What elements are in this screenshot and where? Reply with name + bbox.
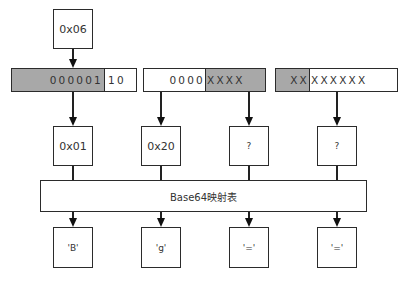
arrow-down-icon [333, 218, 341, 227]
arrow-down-icon [157, 218, 165, 227]
output-char-3: '=' [243, 243, 256, 253]
bit-group-1-gray-text: 000001 [50, 74, 103, 86]
index-box-4: ? [317, 126, 357, 166]
connector-line [160, 166, 162, 180]
bit-group-3-gray-text: XX [290, 74, 309, 86]
connector-line [248, 166, 250, 180]
bit-group-2: 0000 XXXX [143, 68, 266, 92]
arrow-down-icon [69, 218, 77, 227]
input-byte-box: 0x06 [53, 9, 93, 49]
arrow-down-icon [157, 117, 165, 126]
bit-group-3-white-text: XXXXXX [311, 74, 367, 86]
connector-line [336, 166, 338, 180]
index-value-2: 0x20 [147, 140, 175, 153]
output-char-1: 'B' [67, 243, 78, 253]
input-byte-label: 0x06 [59, 23, 87, 36]
bit-group-2-white-text: 0000 [169, 74, 205, 86]
arrow-down-icon [69, 59, 77, 68]
bit-group-2-gray-text: XXXX [207, 74, 245, 86]
bit-group-1-white-segment: 10 [105, 69, 136, 91]
index-value-3: ? [247, 141, 252, 151]
connector-line [72, 49, 74, 59]
output-box-3: '=' [229, 227, 269, 268]
bit-group-2-gray-segment: XXXX [205, 69, 265, 91]
output-box-1: 'B' [53, 227, 93, 268]
index-box-2: 0x20 [141, 126, 181, 166]
connector-line [160, 92, 162, 118]
connector-line [336, 92, 338, 118]
output-box-2: 'g' [141, 227, 181, 268]
bit-group-3: XX XXXXXX [275, 68, 398, 92]
bit-group-3-white-segment: XXXXXX [310, 69, 397, 91]
connector-line [72, 92, 74, 118]
arrow-down-icon [333, 117, 341, 126]
arrow-down-icon [245, 117, 253, 126]
index-value-1: 0x01 [59, 140, 87, 153]
bit-group-1-white-text: 10 [108, 74, 126, 86]
arrow-down-icon [69, 117, 77, 126]
output-box-4: '=' [317, 227, 357, 268]
connector-line [72, 166, 74, 180]
connector-line [248, 92, 250, 118]
arrow-down-icon [245, 218, 253, 227]
bit-group-1: 000001 10 [11, 68, 137, 92]
index-box-1: 0x01 [53, 126, 93, 166]
bit-group-1-gray-segment: 000001 [12, 69, 105, 91]
figure-caption-clipped [100, 273, 310, 282]
output-char-4: '=' [331, 243, 344, 253]
index-value-4: ? [335, 141, 340, 151]
bit-group-3-gray-segment: XX [276, 69, 310, 91]
base64-mapping-table: Base64映射表 [40, 180, 367, 212]
output-char-2: 'g' [156, 243, 167, 253]
index-box-3: ? [229, 126, 269, 166]
bit-group-2-white-segment: 0000 [144, 69, 205, 91]
mapping-table-label: Base64映射表 [170, 189, 237, 204]
